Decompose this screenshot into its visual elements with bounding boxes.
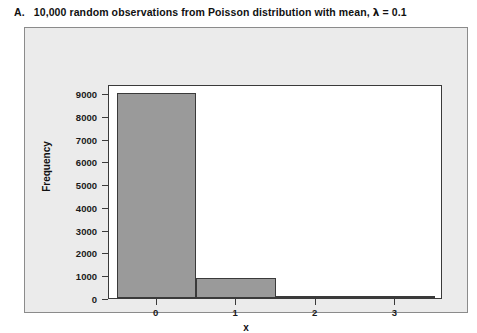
y-tick-label: 8000 <box>51 111 97 122</box>
y-tick-mark <box>102 299 108 300</box>
x-tick-mark <box>156 299 157 305</box>
y-tick-label: 2000 <box>51 248 97 259</box>
y-tick-label: 9000 <box>51 89 97 100</box>
y-tick-mark <box>102 185 108 186</box>
bar-1 <box>196 278 276 298</box>
bar-0 <box>117 93 197 298</box>
lambda-symbol: λ <box>373 6 380 18</box>
x-axis-title: x <box>25 322 467 333</box>
y-tick-label: 6000 <box>51 157 97 168</box>
caption-prefix: A. <box>14 6 25 18</box>
y-tick-label: 1000 <box>51 271 97 282</box>
y-tick-label: 3000 <box>51 225 97 236</box>
x-tick-mark <box>394 299 395 305</box>
y-tick-mark <box>102 94 108 95</box>
x-tick-label: 2 <box>295 307 335 318</box>
y-axis-title: Frequency <box>41 122 52 212</box>
bar-2 <box>276 296 356 298</box>
figure-caption: A. 10,000 random observations from Poiss… <box>14 6 466 18</box>
x-tick-label: 3 <box>374 307 414 318</box>
y-tick-mark <box>102 140 108 141</box>
x-tick-label: 0 <box>136 307 176 318</box>
y-tick-label: 5000 <box>51 180 97 191</box>
y-tick-mark <box>102 162 108 163</box>
x-tick-mark <box>315 299 316 305</box>
bars-container <box>109 86 441 298</box>
y-tick-mark <box>102 231 108 232</box>
caption-text: 10,000 random observations from Poisson … <box>34 6 370 18</box>
y-tick-label: 0 <box>51 294 97 305</box>
caption-lambda-value: = 0.1 <box>383 6 407 18</box>
y-tick-label: 4000 <box>51 202 97 213</box>
y-tick-mark <box>102 276 108 277</box>
x-tick-mark <box>235 299 236 305</box>
plot-area <box>108 85 442 299</box>
y-tick-mark <box>102 208 108 209</box>
bar-3 <box>356 296 436 298</box>
y-tick-mark <box>102 117 108 118</box>
y-tick-mark <box>102 253 108 254</box>
y-tick-label: 7000 <box>51 134 97 145</box>
figure-panel: Frequency x 0100020003000400050006000700… <box>24 27 468 313</box>
x-tick-label: 1 <box>215 307 255 318</box>
